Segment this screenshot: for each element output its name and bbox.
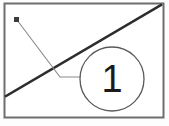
technical-callout-diagram: 1 [0,0,169,126]
leader-origin-dot [14,17,19,22]
drawing-frame [5,4,164,118]
figure-canvas: 1 [0,0,169,126]
callout-balloon-label: 1 [101,58,122,100]
